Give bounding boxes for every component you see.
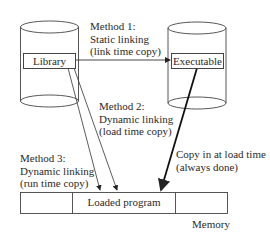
method2-timing: (load time copy): [99, 125, 173, 138]
library-node: Library: [23, 53, 76, 69]
method2-title: Method 2:: [99, 100, 173, 113]
method2-label: Method 2: Dynamic linking (load time cop…: [99, 100, 173, 138]
method1-title: Method 1:: [90, 20, 161, 33]
load-copy-title: Copy in at load time: [176, 148, 266, 161]
executable-node: Executable: [171, 53, 224, 69]
executable-label: Executable: [173, 55, 222, 67]
library-label: Library: [33, 55, 66, 67]
method1-label: Method 1: Static linking (link time copy…: [90, 20, 161, 58]
method2-type: Dynamic linking: [99, 113, 173, 126]
method1-type: Static linking: [90, 33, 161, 46]
load-copy-label: Copy in at load time (always done): [176, 148, 266, 173]
method3-type: Dynamic linking: [20, 165, 94, 178]
method3-timing: (run time copy): [20, 177, 94, 190]
memory-label: Memory: [192, 218, 230, 231]
load-copy-note: (always done): [176, 161, 266, 174]
method3-label: Method 3: Dynamic linking (run time copy…: [20, 152, 94, 190]
method3-title: Method 3:: [20, 152, 94, 165]
method1-timing: (link time copy): [90, 45, 161, 58]
loaded-program-label: Loaded program: [73, 196, 175, 209]
